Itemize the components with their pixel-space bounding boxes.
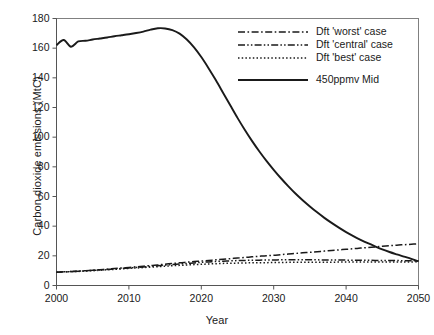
series-line [57,244,419,272]
series-line [57,28,419,261]
legend-swatches [238,32,308,80]
plot-frame [57,19,419,286]
data-series [57,28,419,272]
axis-ticks [53,19,419,290]
chart-container: Carbon dioxide emissions (MtC) Year 0204… [0,0,434,335]
plot-area [0,0,434,335]
series-line [57,262,419,272]
